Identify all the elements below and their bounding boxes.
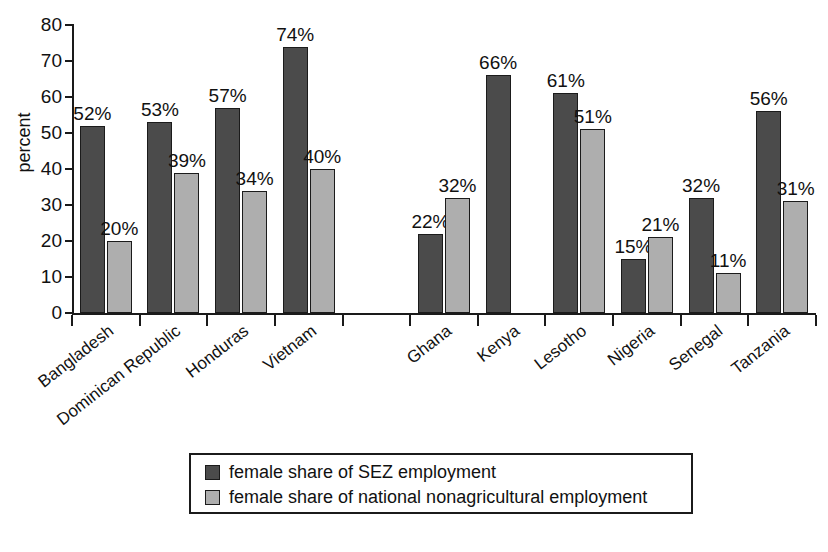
bar-value-label: 20% bbox=[96, 219, 142, 238]
bar-honduras-dark bbox=[215, 108, 240, 313]
y-tick-label-40: 40 bbox=[2, 159, 62, 178]
legend-item-national: female share of national nonagricultural… bbox=[205, 488, 647, 507]
bar-value-label: 31% bbox=[773, 179, 819, 198]
legend-label-national: female share of national nonagricultural… bbox=[229, 488, 647, 507]
y-tick-label-50: 50 bbox=[2, 123, 62, 142]
bar-value-label: 52% bbox=[69, 104, 115, 123]
x-tick-11 bbox=[815, 315, 817, 326]
bar-nigeria-dark bbox=[621, 259, 646, 313]
bar-value-label: 51% bbox=[570, 107, 616, 126]
x-tick-8 bbox=[612, 315, 614, 326]
x-tick-1 bbox=[139, 315, 141, 326]
bar-kenya-dark bbox=[486, 75, 511, 313]
bar-value-label: 74% bbox=[272, 25, 318, 44]
x-tick-7 bbox=[544, 315, 546, 326]
bar-bangladesh-light bbox=[107, 241, 132, 313]
bar-chart: percent 01020304050607080 52%20%53%39%57… bbox=[0, 0, 828, 552]
bar-value-label: 53% bbox=[137, 100, 183, 119]
bar-lesotho-light bbox=[580, 129, 605, 313]
bar-honduras-light bbox=[242, 191, 267, 313]
x-tick-3 bbox=[274, 315, 276, 326]
x-tick-2 bbox=[206, 315, 208, 326]
x-axis-line bbox=[72, 313, 816, 315]
bar-value-label: 56% bbox=[746, 89, 792, 108]
y-tick-label-80: 80 bbox=[2, 15, 62, 34]
legend-swatch-light-icon bbox=[205, 490, 220, 505]
bar-senegal-light bbox=[716, 273, 741, 313]
x-tick-10 bbox=[747, 315, 749, 326]
bar-value-label: 61% bbox=[543, 71, 589, 90]
legend-label-sez: female share of SEZ employment bbox=[229, 463, 496, 482]
bar-tanzania-light bbox=[783, 201, 808, 313]
bar-value-label: 11% bbox=[705, 251, 751, 270]
bar-value-label: 34% bbox=[232, 169, 278, 188]
y-tick-label-20: 20 bbox=[2, 231, 62, 250]
y-tick-label-10: 10 bbox=[2, 267, 62, 286]
chart-legend: female share of SEZ employment female sh… bbox=[189, 453, 693, 514]
y-tick-label-30: 30 bbox=[2, 195, 62, 214]
bar-vietnam-light bbox=[310, 169, 335, 313]
y-tick-label-0: 0 bbox=[2, 303, 62, 322]
bar-tanzania-dark bbox=[756, 111, 781, 313]
x-tick-4 bbox=[342, 315, 344, 326]
bar-vietnam-dark bbox=[283, 47, 308, 313]
bar-value-label: 32% bbox=[678, 176, 724, 195]
x-tick-6 bbox=[477, 315, 479, 326]
bar-ghana-dark bbox=[418, 234, 443, 313]
y-tick-label-60: 60 bbox=[2, 87, 62, 106]
x-tick-5 bbox=[409, 315, 411, 326]
plot-area: 52%20%53%39%57%34%74%40%22%32%66%61%51%1… bbox=[72, 25, 816, 313]
bar-dominican-republic-light bbox=[174, 173, 199, 313]
legend-item-sez: female share of SEZ employment bbox=[205, 463, 496, 482]
bar-nigeria-light bbox=[648, 237, 673, 313]
bar-value-label: 21% bbox=[637, 215, 683, 234]
bar-value-label: 40% bbox=[299, 147, 345, 166]
bar-ghana-light bbox=[445, 198, 470, 313]
bar-value-label: 57% bbox=[205, 86, 251, 105]
bar-value-label: 32% bbox=[435, 176, 481, 195]
legend-swatch-dark-icon bbox=[205, 465, 220, 480]
bar-value-label: 66% bbox=[475, 53, 521, 72]
y-tick-label-70: 70 bbox=[2, 51, 62, 70]
x-tick-9 bbox=[680, 315, 682, 326]
bar-value-label: 39% bbox=[164, 151, 210, 170]
x-tick-0 bbox=[71, 315, 73, 326]
